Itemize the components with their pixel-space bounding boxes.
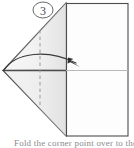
step-number-label: 3 [40,4,46,18]
figure-caption: Fold the corner point over to the right. [14,139,134,148]
origami-step-figure: 3 Fold the corner point over to the righ… [0,0,134,148]
origami-diagram-svg: 3 [0,0,134,148]
figure-caption-strip: Fold the corner point over to the right. [0,139,134,148]
flap-shading-overlay [3,3,66,136]
paper-sheet-rectangle [67,4,129,137]
